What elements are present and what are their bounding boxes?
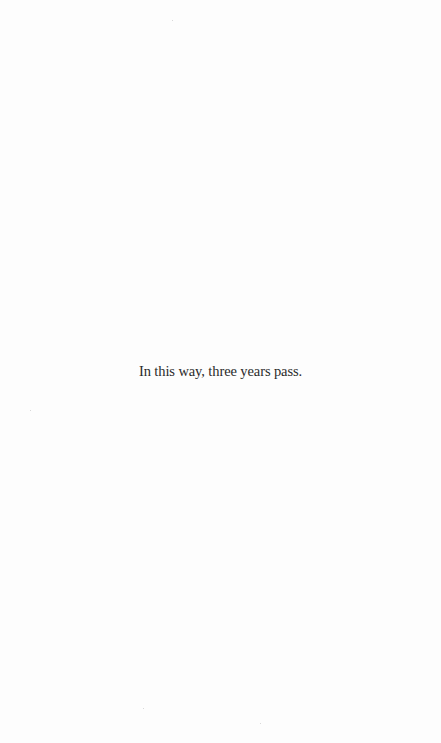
scan-speck <box>260 723 261 724</box>
scan-speck <box>143 708 144 709</box>
scan-speck <box>172 20 173 21</box>
scan-speck <box>30 410 31 411</box>
page-text: In this way, three years pass. <box>0 362 441 380</box>
book-page: In this way, three years pass. <box>0 0 441 743</box>
